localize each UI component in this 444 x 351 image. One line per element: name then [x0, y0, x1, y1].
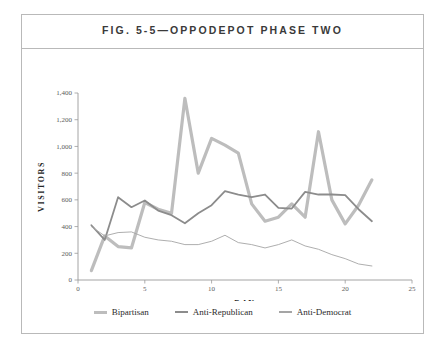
legend-color-swatch [94, 311, 107, 314]
x-tick-label: 10 [208, 285, 216, 293]
y-tick-label: 800 [62, 170, 73, 178]
y-tick-label: 1,400 [56, 89, 72, 97]
y-tick-label: 0 [69, 276, 73, 284]
chart-legend: BipartisanAnti-RepublicanAnti-Democrat [22, 307, 423, 317]
series-line-bipartisan [91, 98, 372, 270]
x-tick-label: 5 [143, 285, 147, 293]
y-axis-title: VISITORS [37, 161, 46, 212]
legend-color-swatch [279, 311, 292, 312]
page-title: FIG. 5-5—OPPODEPOT PHASE TWO [22, 24, 423, 36]
x-tick-label: 25 [409, 285, 417, 293]
legend-item-bipartisan[interactable]: Bipartisan [94, 307, 149, 317]
figure-frame: FIG. 5-5—OPPODEPOT PHASE TWO 02004006008… [21, 14, 424, 334]
y-tick-label: 200 [62, 250, 73, 258]
figure-title-bar: FIG. 5-5—OPPODEPOT PHASE TWO [22, 15, 423, 49]
legend-item-label: Anti-Republican [193, 307, 253, 317]
legend-item-label: Bipartisan [112, 307, 149, 317]
y-tick-label: 600 [62, 196, 73, 204]
legend-item-anti-republican[interactable]: Anti-Republican [175, 307, 253, 317]
x-tick-label: 20 [342, 285, 350, 293]
legend-color-swatch [175, 311, 188, 313]
line-chart: 02004006008001,0001,2001,4000510152025VI… [22, 49, 423, 301]
y-tick-label: 400 [62, 223, 73, 231]
x-axis-title: DAY [234, 299, 255, 301]
plot-area: 02004006008001,0001,2001,4000510152025VI… [22, 49, 423, 333]
y-tick-label: 1,200 [56, 116, 72, 124]
y-tick-label: 1,000 [56, 143, 72, 151]
x-tick-label: 15 [275, 285, 283, 293]
legend-item-label: Anti-Democrat [297, 307, 351, 317]
x-tick-label: 0 [76, 285, 80, 293]
legend-item-anti-democrat[interactable]: Anti-Democrat [279, 307, 351, 317]
